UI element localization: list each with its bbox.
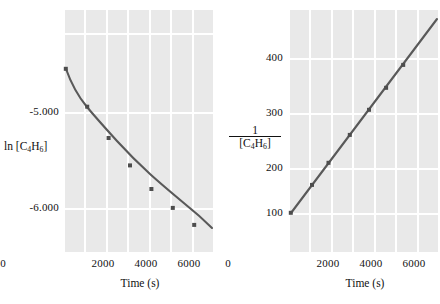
data-point-marker [192,223,196,227]
x-tick-label-left-0: 0 [0,257,15,269]
data-point-marker [348,133,352,137]
x-tick-label-right-0: 0 [216,257,240,269]
data-point-marker [64,67,68,71]
y-axis-title-left: ln [C4H6] [4,140,47,154]
data-point-marker [401,63,405,67]
curve-path-left [66,69,212,228]
x-tick-label-left-4000: 4000 [127,257,165,269]
x-tick-label-right-2000: 2000 [309,257,347,269]
data-point-marker [367,108,371,112]
plot-area-right [288,10,440,252]
data-point-marker [149,187,153,191]
panel-ln-concentration: -5.000 -6.000 0 2000 4000 6000 ln [C4H6]… [0,0,217,304]
y-axis-title-left-text: ln [C4H6] [4,140,47,152]
data-point-marker [85,105,89,109]
y-tick-label-right-200: 200 [241,161,283,173]
y-tick-label-left-2: -6.000 [8,201,59,213]
x-tick-label-left-2000: 2000 [84,257,122,269]
data-markers-left [64,67,196,227]
data-point-marker [289,211,293,215]
y-axis-title-right-numerator: 1 [229,124,281,136]
data-point-marker [171,206,175,210]
data-point-marker [327,161,331,165]
plot-area-left [63,10,215,252]
y-tick-label-left-1: -5.000 [8,105,59,117]
data-point-marker [310,183,314,187]
x-tick-label-left-6000: 6000 [170,257,208,269]
x-axis-title-right: Time (s) [320,277,410,289]
data-point-marker [128,163,132,167]
data-line-right [288,10,440,252]
data-curve-left [63,10,215,252]
y-axis-title-right-denominator: [C4H6] [229,136,281,151]
x-tick-label-right-4000: 4000 [352,257,390,269]
y-tick-label-right-300: 300 [241,106,283,118]
x-axis-title-left: Time (s) [95,277,185,289]
y-tick-label-right-100: 100 [241,206,283,218]
data-point-marker [384,86,388,90]
data-point-marker [107,136,111,140]
x-tick-label-right-6000: 6000 [395,257,433,269]
y-axis-title-right: 1 [C4H6] [229,124,281,151]
y-tick-label-right-400: 400 [241,51,283,63]
panel-inverse-concentration: 400 300 200 100 0 2000 4000 6000 1 [C4H6… [217,0,434,304]
